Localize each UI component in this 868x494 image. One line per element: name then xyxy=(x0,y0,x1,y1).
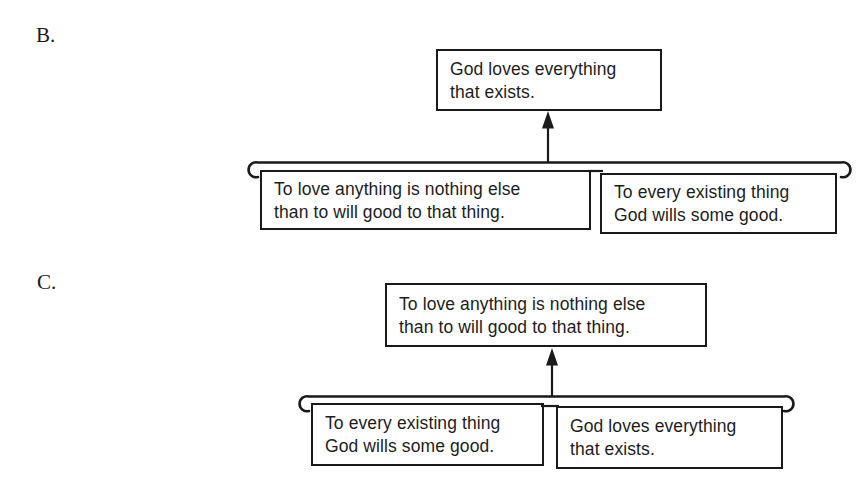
text-line: God loves everything xyxy=(570,415,770,438)
text-line: God wills some good. xyxy=(325,435,531,458)
text-line: To every existing thing xyxy=(614,181,824,204)
diagram-b-conclusion-box: God loves everything that exists. xyxy=(436,49,662,111)
text-line: than to will good to that thing. xyxy=(274,201,578,224)
diagram-b-up-arrowhead-icon xyxy=(542,111,554,129)
text-line: that exists. xyxy=(570,438,770,461)
diagram-b-premise-left-box: To love anything is nothing else than to… xyxy=(260,170,591,230)
diagram-c-label: C. xyxy=(37,270,56,294)
text-line: To every existing thing xyxy=(325,412,531,435)
text-line: that exists. xyxy=(450,81,649,104)
text-line: To love anything is nothing else xyxy=(399,293,694,316)
text-line: God loves everything xyxy=(450,58,649,81)
diagram-b-premise-right-box: To every existing thing God wills some g… xyxy=(600,173,837,234)
diagram-c-premise-left-box: To every existing thing God wills some g… xyxy=(311,403,544,466)
argument-diagrams-page: B. God loves everything that exists. To … xyxy=(0,0,868,494)
diagram-c-up-arrowhead-icon xyxy=(546,348,558,366)
text-line: God wills some good. xyxy=(614,204,824,227)
diagram-c-connector xyxy=(300,348,794,411)
diagram-c-premise-right-box: God loves everything that exists. xyxy=(556,406,783,469)
diagram-b-label: B. xyxy=(36,23,55,47)
text-line: To love anything is nothing else xyxy=(274,178,578,201)
text-line: than to will good to that thing. xyxy=(399,316,694,339)
diagram-c-conclusion-box: To love anything is nothing else than to… xyxy=(385,283,707,347)
diagram-b-connector xyxy=(249,111,851,177)
